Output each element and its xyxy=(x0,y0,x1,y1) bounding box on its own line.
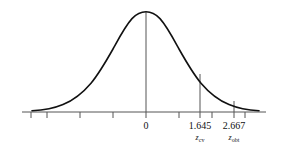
normal-distribution-figure: 0 1.645 2.667 zcv zobt xyxy=(0,0,282,156)
symbol-label-z-cv-sub: cv xyxy=(199,137,205,143)
symbol-label-z-obt-sub: obt xyxy=(232,137,240,143)
tick-label-zero: 0 xyxy=(144,120,149,131)
distribution-plot xyxy=(0,0,282,156)
symbol-label-z-obt: zobt xyxy=(229,133,240,143)
tick-label-obtained-value: 2.667 xyxy=(223,120,246,131)
symbol-label-z-cv: zcv xyxy=(196,133,205,143)
axis-tick-marks xyxy=(31,112,245,118)
tick-label-critical-value: 1.645 xyxy=(189,120,212,131)
